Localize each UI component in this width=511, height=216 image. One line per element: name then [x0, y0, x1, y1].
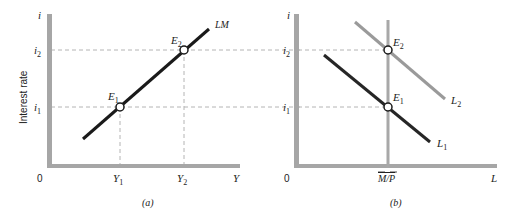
- panel-a-e2-label: E2: [170, 34, 182, 49]
- y1-tick-label: Y1: [113, 172, 123, 187]
- panel-a-i1-label: i1: [34, 101, 41, 116]
- panel-a-e1-label: E1: [107, 90, 119, 105]
- panel-a-guides: [51, 50, 300, 164]
- panel-b-x-axis: [294, 164, 497, 168]
- panel-a-caption: (a): [142, 197, 154, 209]
- panel-b-i-axis-label: i: [287, 9, 290, 21]
- lm-curve-label: LM: [214, 19, 230, 30]
- panel-a: i i2 i1 Interest rate 0 Y1 Y2 Y E1 E2 LM…: [18, 9, 300, 209]
- l2-curve-label: L2: [450, 94, 461, 109]
- is-lm-diagram: i i2 i1 Interest rate 0 Y1 Y2 Y E1 E2 LM…: [0, 0, 511, 216]
- l-axis-symbol-label: L: [490, 172, 497, 184]
- lm-curve: [83, 29, 209, 139]
- panel-b: i i2 i1 0 M/P L E1 E2 L1 L2 (b): [283, 9, 497, 209]
- real-money-supply-label: M/P: [377, 173, 395, 184]
- panel-b-i2-label: i2: [283, 44, 290, 59]
- panel-a-x-axis: [47, 164, 240, 168]
- y2-tick-label: Y2: [177, 172, 187, 187]
- panel-b-guides: [298, 50, 388, 107]
- panel-b-y-axis: [294, 14, 299, 168]
- l2-curve: [355, 22, 445, 99]
- panel-a-i2-label: i2: [34, 44, 41, 59]
- panel-b-e1-point: [384, 103, 392, 111]
- panel-a-origin-label: 0: [37, 173, 43, 184]
- panel-b-i1-label: i1: [283, 101, 290, 116]
- y-axis-symbol-label: Y: [233, 172, 241, 184]
- interest-rate-axis-title: Interest rate: [18, 70, 29, 124]
- panel-a-y-axis: [47, 14, 52, 168]
- l1-curve: [324, 55, 430, 142]
- panel-b-e2-point: [384, 46, 392, 54]
- panel-b-caption: (b): [390, 197, 402, 209]
- panel-b-origin-label: 0: [284, 173, 290, 184]
- money-supply-line: [387, 20, 390, 168]
- panel-b-e2-label: E2: [392, 36, 404, 51]
- l1-curve-label: L1: [436, 137, 447, 152]
- panel-a-i-axis-label: i: [38, 9, 41, 21]
- panel-b-e1-label: E1: [392, 91, 404, 106]
